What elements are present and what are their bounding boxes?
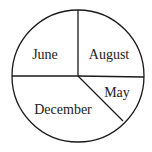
slice-label-may: May [104, 85, 130, 100]
slice-label-august: August [89, 47, 130, 62]
slice-label-june: June [32, 47, 58, 62]
slice-label-december: December [34, 102, 92, 117]
pie-chart: June August May December [0, 0, 152, 152]
